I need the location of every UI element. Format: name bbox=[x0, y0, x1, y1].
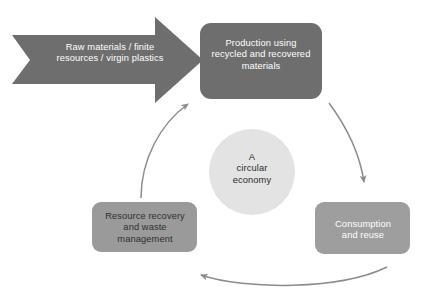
production-to-consumption-arrow-path bbox=[329, 103, 364, 182]
core-label: A circular economy bbox=[212, 152, 292, 186]
recovery-label: Resource recovery and waste management bbox=[93, 211, 197, 245]
consumption-line-2: and reuse bbox=[316, 230, 410, 241]
raw-materials-label: Raw materials / finite resources / virgi… bbox=[28, 42, 192, 65]
consumption-line-1: Consumption bbox=[316, 219, 410, 230]
core-line-2: circular bbox=[212, 163, 292, 174]
production-line-1: Production using bbox=[202, 38, 320, 49]
production-line-3: materials bbox=[202, 61, 320, 72]
raw-materials-line-2: resources / virgin plastics bbox=[28, 53, 192, 64]
production-line-2: recycled and recovered bbox=[202, 49, 320, 60]
recovery-line-1: Resource recovery bbox=[93, 211, 197, 222]
consumption-to-recovery-arrow-path bbox=[201, 267, 387, 285]
recovery-line-2: and waste bbox=[93, 222, 197, 233]
production-label: Production using recycled and recovered … bbox=[202, 38, 320, 72]
core-line-3: economy bbox=[212, 175, 292, 186]
recovery-to-production-arrow-path bbox=[141, 104, 188, 198]
circular-economy-diagram: Raw materials / finite resources / virgi… bbox=[0, 0, 423, 302]
raw-materials-line-1: Raw materials / finite bbox=[28, 42, 192, 53]
core-line-1: A bbox=[212, 152, 292, 163]
recovery-line-3: management bbox=[93, 234, 197, 245]
consumption-label: Consumption and reuse bbox=[316, 219, 410, 242]
